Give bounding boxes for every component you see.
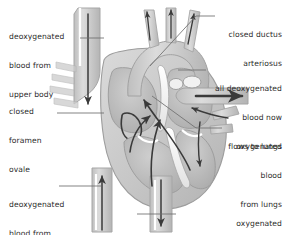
label-line: oxygenated bbox=[144, 219, 282, 229]
label-line: oxygenated bbox=[182, 142, 282, 152]
label-line: blood bbox=[182, 171, 282, 181]
label-line: closed bbox=[9, 107, 42, 117]
label-line: closed ductus bbox=[170, 30, 282, 40]
label-closed-foramen-ovale: closed foramen ovale bbox=[9, 88, 42, 184]
superior-vena-cava bbox=[74, 8, 100, 104]
label-line: foramen bbox=[9, 136, 42, 146]
label-line: deoxygenated bbox=[9, 32, 64, 42]
label-line: ovale bbox=[9, 165, 42, 175]
label-line: blood from bbox=[9, 61, 64, 71]
label-oxygenated-to-lower-body: oxygenated blood to lower body bbox=[144, 200, 282, 235]
label-line: deoxygenated bbox=[9, 200, 64, 210]
label-line: blood from bbox=[9, 229, 64, 235]
label-line: blood now bbox=[164, 113, 282, 123]
brachiocephalic-artery bbox=[144, 10, 159, 48]
label-deoxygenated-lower-body: deoxygenated blood from lower body bbox=[9, 181, 64, 235]
label-line: all deoxygenated bbox=[164, 84, 282, 94]
